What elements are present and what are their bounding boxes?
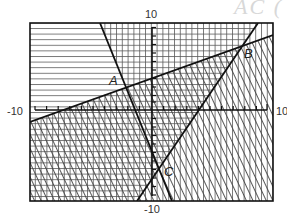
x-min-label: -10 bbox=[7, 105, 23, 117]
x-max-label: 10 bbox=[276, 105, 287, 117]
y-min-label: -10 bbox=[144, 203, 160, 215]
point-a-label: A bbox=[108, 73, 118, 88]
inequality-graph: 10 -10 -10 10 A B C bbox=[0, 0, 287, 218]
y-max-label: 10 bbox=[145, 8, 157, 20]
point-b-label: B bbox=[244, 46, 253, 61]
point-c-label: C bbox=[164, 164, 174, 179]
